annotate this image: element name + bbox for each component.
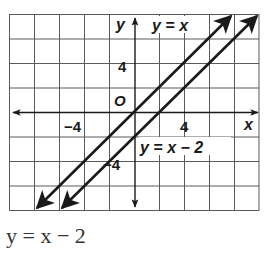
x-tick-label-neg4: −4 — [64, 118, 82, 135]
x-tick-label-4: 4 — [180, 118, 189, 135]
y-axis-label: y — [115, 16, 126, 33]
line-label-y-equals-x: y = x — [151, 17, 189, 34]
y-tick-label-neg4: −4 — [103, 156, 121, 173]
y-tick-label-4: 4 — [118, 58, 127, 75]
coordinate-graph: y x O −4 4 4 −4 y = x y = x − 2 — [0, 0, 264, 220]
equation-caption: y = x − 2 — [6, 223, 86, 249]
origin-label: O — [114, 92, 126, 109]
line-label-y-equals-x-minus-2: y = x − 2 — [139, 139, 203, 156]
x-axis-label: x — [243, 116, 254, 133]
